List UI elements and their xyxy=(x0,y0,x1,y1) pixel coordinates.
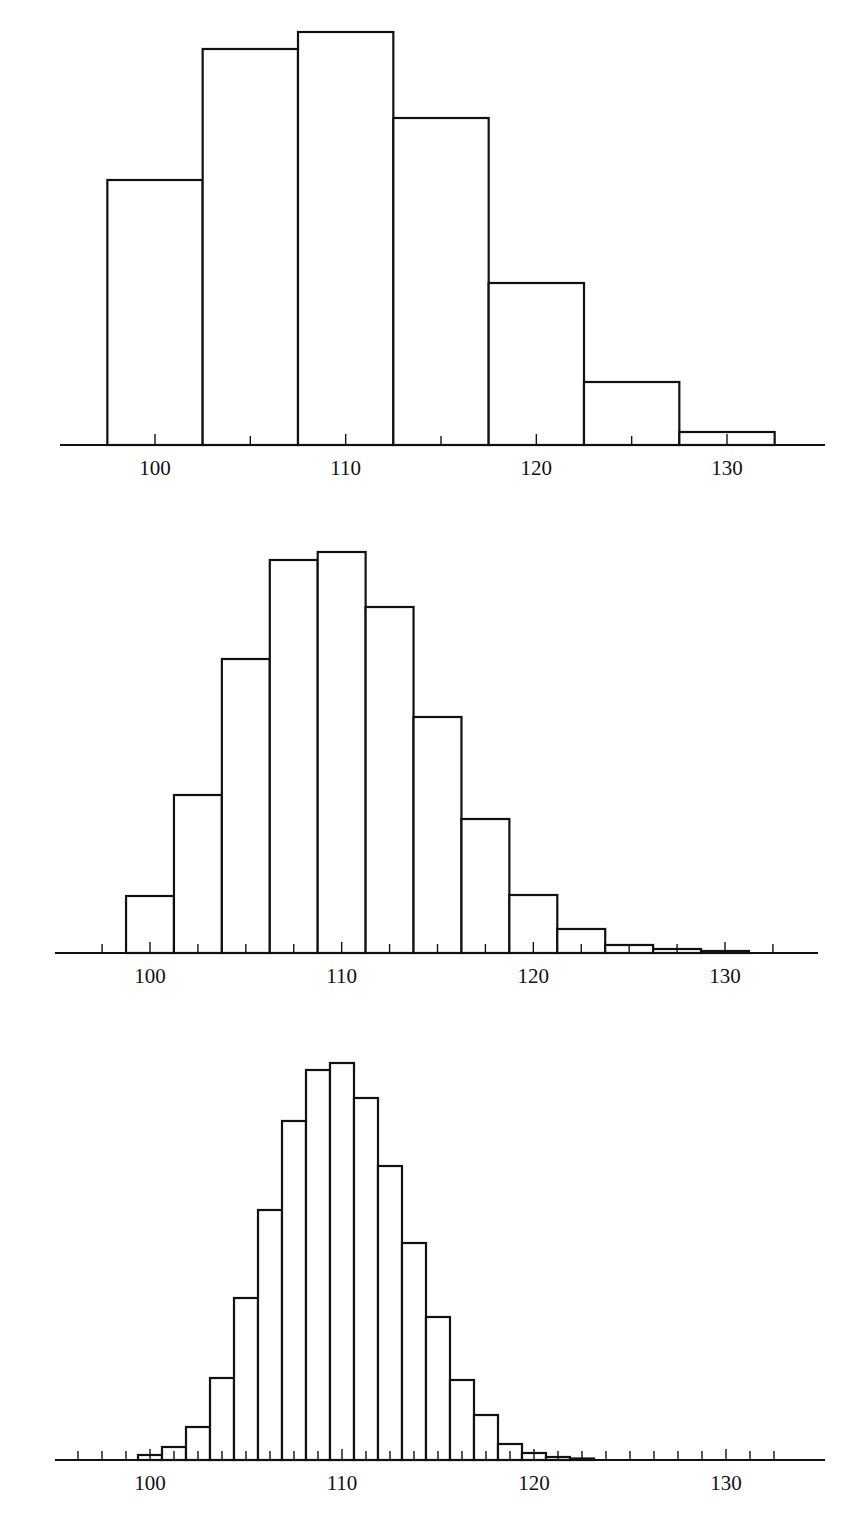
histogram-bar xyxy=(222,659,270,953)
histogram-bar xyxy=(318,552,366,953)
histogram-2: 100110120130 xyxy=(0,500,858,1005)
histogram-bar xyxy=(366,607,414,953)
histogram-panel-3: 100110120130 xyxy=(0,1005,858,1516)
histogram-bar xyxy=(174,795,222,953)
x-tick-label: 110 xyxy=(327,1471,358,1495)
histogram-bar xyxy=(203,49,298,445)
x-tick-label: 130 xyxy=(710,1471,742,1495)
histogram-bar xyxy=(402,1243,426,1460)
histogram-bar xyxy=(354,1098,378,1460)
x-tick-label: 110 xyxy=(326,964,357,988)
histogram-bar xyxy=(330,1063,354,1460)
histogram-bar xyxy=(414,717,462,953)
histogram-bar xyxy=(450,1380,474,1460)
histogram-bar xyxy=(282,1121,306,1460)
histogram-bar xyxy=(489,283,584,445)
histogram-bar xyxy=(210,1378,234,1460)
histogram-panel-1: 100110120130 xyxy=(0,0,858,500)
x-tick-label: 120 xyxy=(518,1471,550,1495)
histogram-bar xyxy=(461,819,509,953)
x-tick-label: 100 xyxy=(139,456,171,480)
x-tick-label: 130 xyxy=(709,964,741,988)
histogram-bar xyxy=(378,1166,402,1460)
histogram-bar xyxy=(107,180,202,445)
histogram-bar xyxy=(270,560,318,953)
histogram-bar xyxy=(584,382,679,445)
x-tick-label: 120 xyxy=(521,456,553,480)
histogram-panel-2: 100110120130 xyxy=(0,500,858,1005)
histogram-bar xyxy=(426,1317,450,1460)
histogram-3: 100110120130 xyxy=(0,1005,858,1516)
histogram-bar xyxy=(393,118,488,445)
histogram-bar xyxy=(298,32,393,445)
histogram-bar xyxy=(258,1210,282,1460)
x-tick-label: 110 xyxy=(330,456,361,480)
histogram-bar xyxy=(234,1298,258,1460)
histogram-1: 100110120130 xyxy=(0,0,858,500)
x-tick-label: 130 xyxy=(711,456,743,480)
x-tick-label: 100 xyxy=(134,1471,166,1495)
x-tick-label: 120 xyxy=(518,964,550,988)
x-tick-label: 100 xyxy=(134,964,166,988)
histogram-bar xyxy=(306,1070,330,1460)
